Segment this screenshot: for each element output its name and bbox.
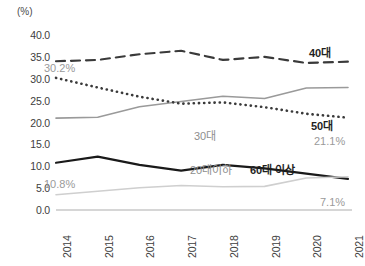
x-tick-label: 2016 xyxy=(144,235,156,258)
series-label-20dae-ihar: 20대이하 xyxy=(190,161,232,177)
series-label-30dae: 30대 xyxy=(194,127,216,143)
series-label-40dae: 40대 xyxy=(309,44,331,60)
series-label-60dae-isang: 60대 이상 xyxy=(250,161,295,177)
x-tick-label: 2018 xyxy=(228,235,240,258)
value-label-30dae-end: 21.1% xyxy=(314,135,345,147)
x-tick-label: 2017 xyxy=(186,235,198,258)
x-tick-label: 2015 xyxy=(103,235,115,258)
series-label-50dae: 50대 xyxy=(311,117,333,133)
x-tick-label: 2020 xyxy=(311,235,323,258)
x-tick-label: 2021 xyxy=(353,235,365,258)
x-tick-label: 2019 xyxy=(270,235,282,258)
x-tick-label: 2014 xyxy=(61,235,73,258)
value-label-60dae-start: 10.8% xyxy=(44,178,75,190)
value-label-20dae-end: 7.1% xyxy=(320,196,345,208)
value-label-30dae-start: 30.2% xyxy=(44,62,75,74)
